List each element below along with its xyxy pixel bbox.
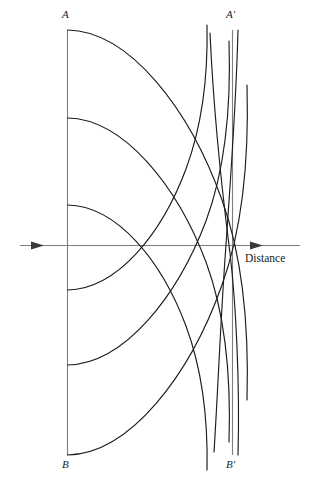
wavefront-arc-6 (68, 85, 248, 455)
label-B-prime: B′ (226, 458, 235, 470)
wavefront-arc-5 (68, 41, 230, 365)
label-distance-axis: Distance (245, 252, 285, 264)
wavefront-figure: A A′ B B′ Distance (0, 0, 314, 486)
wavefront-arc-4 (68, 25, 208, 290)
axis-arrow-right-icon (250, 242, 263, 250)
wavefront-arc-3 (68, 205, 208, 470)
label-A-prime: A′ (226, 8, 235, 20)
label-A: A (62, 8, 69, 20)
wavefront-arc-2 (68, 118, 230, 442)
label-B: B (62, 458, 69, 470)
wavefront-diagram-canvas (0, 0, 314, 486)
axis-arrow-left-icon (31, 242, 44, 250)
